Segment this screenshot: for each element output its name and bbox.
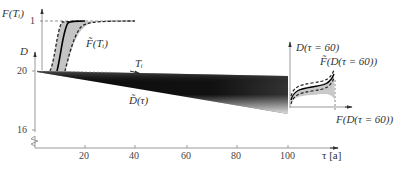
main-y-axis (31, 52, 38, 148)
y-tick-16: 16 (17, 125, 27, 135)
inset-cdf-curves (291, 70, 335, 104)
degradation-curve-label: D̃(τ) (129, 95, 148, 106)
x-tick-40: 40 (129, 151, 139, 161)
main-x-axis-label: τ [a] (322, 150, 341, 161)
time-marker-label: Tᵢ (135, 58, 143, 69)
inset-y-axis-label: D(τ = 60) (296, 42, 339, 53)
cdf-curve-label: F̃(Tᵢ) (86, 38, 108, 49)
cdf-y-axis-label: F(Tᵢ) (2, 8, 24, 19)
inset-curve-label: F̃(D(τ = 60)) (320, 56, 377, 67)
main-y-axis-label: D (20, 46, 28, 57)
inset-x-axis-label: F(D(τ = 60)) (336, 114, 393, 125)
cdf-y-tick-1: 1 (30, 16, 35, 26)
x-tick-80: 80 (231, 151, 241, 161)
main-x-axis (35, 145, 338, 148)
x-tick-100: 100 (280, 151, 295, 161)
x-tick-60: 60 (181, 151, 191, 161)
y-tick-20: 20 (17, 66, 27, 76)
diagram-canvas (0, 0, 405, 171)
x-tick-20: 20 (79, 151, 89, 161)
degradation-wedge (37, 71, 288, 114)
